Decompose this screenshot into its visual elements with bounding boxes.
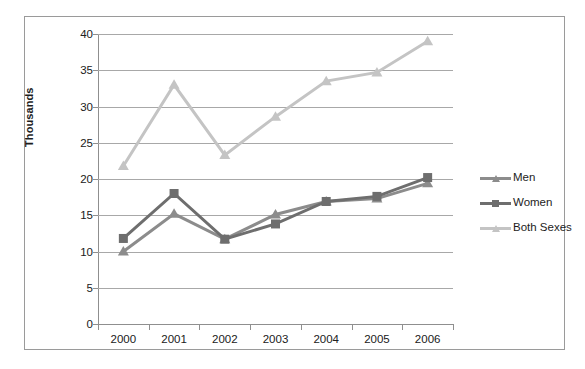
chart-legend: MenWomenBoth Sexes: [480, 165, 585, 240]
y-axis-tick-label: 25: [80, 137, 93, 149]
x-axis-tick-mark: [199, 325, 200, 330]
y-axis-tick-label: 40: [80, 28, 93, 40]
data-point-marker: [271, 219, 280, 228]
y-axis-tick-label: 20: [80, 173, 93, 185]
scanned-title-remnant: [6, 0, 306, 10]
legend-item-men[interactable]: Men: [480, 165, 585, 190]
data-point-marker: [423, 173, 432, 182]
x-axis-tick-mark: [301, 325, 302, 330]
x-axis-tick-mark: [402, 325, 403, 330]
legend-label: Both Sexes: [513, 222, 572, 234]
data-point-marker: [322, 197, 331, 206]
x-axis-tick-mark: [352, 325, 353, 330]
series-women: [119, 173, 432, 244]
series-both-sexes: [118, 36, 433, 170]
x-axis-tick-label: 2002: [212, 333, 238, 345]
x-axis-tick-label: 2004: [313, 333, 339, 345]
series-line: [123, 41, 427, 166]
legend-label: Men: [513, 172, 535, 184]
chart-frame: Thousands 0510152025303540 2000200120022…: [24, 16, 565, 350]
legend-swatch-triangle-icon: [480, 172, 511, 184]
x-axis-tick-marks: [98, 325, 455, 331]
x-axis-tick-label: 2000: [111, 333, 137, 345]
y-axis-tick-label: 35: [80, 64, 93, 76]
legend-label: Women: [513, 197, 552, 209]
x-axis-tick-label: 2005: [364, 333, 390, 345]
y-axis-tick-label: 15: [80, 209, 93, 221]
x-axis-tick-label: 2006: [415, 333, 441, 345]
data-point-marker: [119, 234, 128, 243]
y-axis-tick-label: 30: [80, 101, 93, 113]
data-point-marker: [372, 192, 381, 201]
x-axis-tick-mark: [98, 325, 99, 330]
data-point-marker: [422, 36, 433, 46]
series-lines: [98, 34, 454, 325]
data-point-marker: [169, 79, 180, 89]
data-point-marker: [170, 189, 179, 198]
legend-swatch-square-icon: [480, 197, 511, 209]
x-axis-tick-labels: 2000200120022003200420052006: [98, 333, 455, 349]
legend-item-both-sexes[interactable]: Both Sexes: [480, 215, 585, 240]
x-axis-tick-mark: [149, 325, 150, 330]
series-men: [118, 178, 433, 256]
y-axis-tick-label: 10: [80, 246, 93, 258]
legend-item-women[interactable]: Women: [480, 190, 585, 215]
legend-swatch-triangle-icon: [480, 222, 511, 234]
x-axis-tick-mark: [250, 325, 251, 330]
data-point-marker: [220, 235, 229, 244]
x-axis-tick-label: 2001: [161, 333, 187, 345]
x-axis-tick-mark: [453, 325, 454, 330]
y-axis-tick-labels: 0510152025303540: [65, 34, 93, 325]
y-axis-title: Thousands: [23, 87, 35, 147]
series-line: [123, 178, 427, 240]
data-point-marker: [169, 208, 180, 218]
x-axis-tick-label: 2003: [263, 333, 289, 345]
